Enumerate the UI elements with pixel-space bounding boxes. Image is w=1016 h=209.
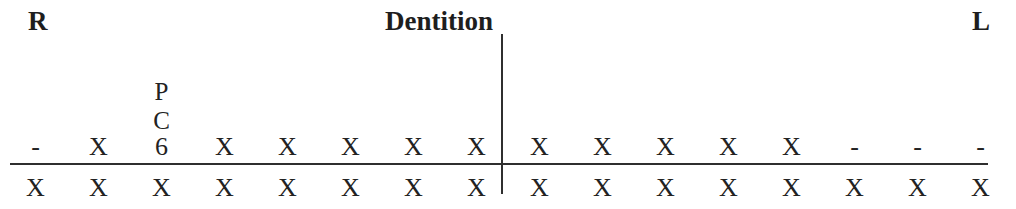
upper-tooth-mark-13: X [760,134,823,160]
dentition-chart: R Dentition L P C - X 6 X X X X X X X X … [0,0,1016,209]
lower-tooth-mark-11: X [634,175,697,201]
upper-tooth-mark-10: X [571,134,634,160]
lower-tooth-mark-5: X [256,175,319,201]
lower-tooth-mark-12: X [697,175,760,201]
lower-tooth-mark-15: X [886,175,949,201]
chart-title: Dentition [385,8,493,35]
lower-tooth-mark-1: X [4,175,67,201]
lower-tooth-mark-16: X [949,175,1012,201]
upper-tooth-mark-12: X [697,134,760,160]
lower-tooth-mark-3: X [130,175,193,201]
annotation-letter-c: C [130,106,193,135]
right-side-label: R [28,8,48,35]
lower-tooth-mark-6: X [319,175,382,201]
upper-tooth-row: - X 6 X X X X X X X X X X - - - [4,134,1012,160]
upper-tooth-mark-14: - [823,134,886,160]
upper-tooth-mark-2: X [67,134,130,160]
upper-tooth-mark-9: X [508,134,571,160]
lower-tooth-mark-7: X [382,175,445,201]
lower-tooth-mark-2: X [67,175,130,201]
lower-tooth-mark-8: X [445,175,508,201]
lower-tooth-mark-14: X [823,175,886,201]
upper-tooth-mark-1: - [4,134,67,160]
annotation-letter-p: P [130,77,193,106]
lower-tooth-mark-4: X [193,175,256,201]
lower-tooth-row: X X X X X X X X X X X X X X X X [4,175,1012,201]
upper-tooth-mark-8: X [445,134,508,160]
lower-tooth-mark-9: X [508,175,571,201]
upper-tooth-mark-6: X [319,134,382,160]
lower-tooth-mark-10: X [571,175,634,201]
upper-tooth-mark-4: X [193,134,256,160]
upper-tooth-mark-11: X [634,134,697,160]
upper-tooth-mark-5: X [256,134,319,160]
midline-divider [501,34,503,194]
upper-tooth-mark-15: - [886,134,949,160]
lower-tooth-mark-13: X [760,175,823,201]
left-side-label: L [972,8,990,35]
upper-tooth-mark-7: X [382,134,445,160]
tooth-annotation-stack: P C [130,77,193,135]
upper-tooth-mark-16: - [949,134,1012,160]
occlusal-divider-line [10,163,988,165]
upper-tooth-mark-3: 6 [130,134,193,160]
